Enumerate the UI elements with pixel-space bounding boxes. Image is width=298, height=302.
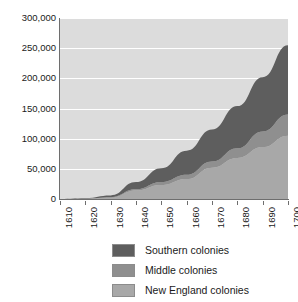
y-tick-label: 200,000 bbox=[4, 73, 56, 83]
x-tick-label: 1700 bbox=[292, 207, 298, 228]
legend-item[interactable]: New England colonies bbox=[112, 280, 298, 300]
y-tick-label: 50,000 bbox=[4, 164, 56, 174]
x-tick-mark bbox=[136, 201, 137, 205]
x-tick-label: 1660 bbox=[191, 207, 201, 228]
plot-area bbox=[60, 18, 288, 199]
series-layers bbox=[60, 18, 288, 199]
x-tick-mark bbox=[237, 201, 238, 205]
x-tick-mark bbox=[187, 201, 188, 205]
y-tick-label: 250,000 bbox=[4, 43, 56, 53]
x-tick-label: 1650 bbox=[165, 207, 175, 228]
x-tick-mark bbox=[161, 201, 162, 205]
x-tick-label: 1610 bbox=[64, 207, 74, 228]
y-tick-label: 150,000 bbox=[4, 104, 56, 114]
x-tick-mark bbox=[288, 201, 289, 205]
x-tick-label: 1640 bbox=[140, 207, 150, 228]
y-axis-labels: 050,000100,000150,000200,000250,000300,0… bbox=[0, 0, 56, 302]
x-tick-label: 1680 bbox=[241, 207, 251, 228]
x-tick-mark bbox=[212, 201, 213, 205]
y-tick-label: 0 bbox=[4, 194, 56, 204]
x-tick-mark bbox=[85, 201, 86, 205]
y-axis-line bbox=[59, 18, 60, 200]
legend-label: Southern colonies bbox=[145, 245, 229, 256]
legend-label: Middle colonies bbox=[145, 265, 217, 276]
x-tick-label: 1670 bbox=[216, 207, 226, 228]
x-tick-mark bbox=[263, 201, 264, 205]
x-tick-mark bbox=[60, 201, 61, 205]
y-tick-label: 300,000 bbox=[4, 13, 56, 23]
legend-item[interactable]: Southern colonies bbox=[112, 240, 298, 260]
legend-label: New England colonies bbox=[145, 285, 249, 296]
x-tick-label: 1690 bbox=[267, 207, 277, 228]
x-tick-label: 1630 bbox=[115, 207, 125, 228]
x-axis-labels: 1610162016301640165016601670168016901700 bbox=[60, 201, 290, 241]
x-tick-mark bbox=[111, 201, 112, 205]
legend-swatch bbox=[112, 244, 135, 257]
legend-swatch bbox=[112, 264, 135, 277]
chart-legend: Southern coloniesMiddle coloniesNew Engl… bbox=[112, 240, 298, 300]
x-axis-line bbox=[59, 199, 289, 200]
legend-item[interactable]: Middle colonies bbox=[112, 260, 298, 280]
y-tick-label: 100,000 bbox=[4, 134, 56, 144]
stacked-area-chart: 050,000100,000150,000200,000250,000300,0… bbox=[0, 0, 298, 302]
legend-swatch bbox=[112, 284, 135, 297]
x-tick-label: 1620 bbox=[89, 207, 99, 228]
